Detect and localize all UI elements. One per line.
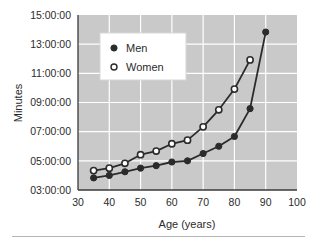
x-tick-label: 30 [72, 196, 84, 208]
x-tick-labels: 30405060708090100 [72, 196, 306, 208]
data-point-marker [169, 159, 175, 165]
data-point-marker [106, 165, 112, 171]
legend-label-women: Women [126, 61, 164, 73]
data-point-marker [122, 169, 128, 175]
data-point-marker [231, 86, 237, 92]
data-point-marker [122, 160, 128, 166]
data-point-marker [231, 133, 237, 139]
data-point-marker [184, 137, 190, 143]
x-tick-label: 50 [135, 196, 147, 208]
chart-figure: 03:00:0005:00:0007:00:0009:00:0011:00:00… [0, 0, 317, 247]
x-tick-label: 90 [260, 196, 272, 208]
y-tick-label: 03:00:00 [30, 184, 71, 196]
y-tick-label: 13:00:00 [30, 38, 71, 50]
x-tick-label: 100 [288, 196, 306, 208]
data-point-marker [184, 158, 190, 164]
data-point-marker [247, 106, 253, 112]
data-point-marker [137, 152, 143, 158]
data-point-marker [91, 168, 97, 174]
y-tick-label: 15:00:00 [30, 9, 71, 21]
legend-marker-men [111, 45, 117, 51]
footer-divider [12, 236, 305, 237]
data-point-marker [200, 150, 206, 156]
legend-marker-women [111, 64, 117, 70]
data-point-marker [153, 148, 159, 154]
x-tick-label: 40 [103, 196, 115, 208]
data-point-marker [263, 29, 269, 35]
data-point-marker [200, 124, 206, 130]
y-tick-labels: 03:00:0005:00:0007:00:0009:00:0011:00:00… [30, 9, 71, 196]
x-tick-label: 60 [166, 196, 178, 208]
x-tick-label: 70 [197, 196, 209, 208]
y-tick-label: 05:00:00 [30, 155, 71, 167]
data-point-marker [91, 175, 97, 181]
data-point-marker [137, 165, 143, 171]
data-point-marker [169, 141, 175, 147]
legend-label-men: Men [126, 42, 147, 54]
data-point-marker [216, 143, 222, 149]
x-tick-label: 80 [229, 196, 241, 208]
y-tick-label: 07:00:00 [30, 125, 71, 137]
y-tick-label: 11:00:00 [31, 67, 71, 79]
data-point-marker [153, 163, 159, 169]
data-point-marker [106, 172, 112, 178]
x-axis-title: Age (years) [159, 218, 216, 230]
data-point-marker [216, 107, 222, 113]
line-chart: 03:00:0005:00:0007:00:0009:00:0011:00:00… [0, 0, 317, 247]
y-axis-title: Minutes [12, 83, 24, 122]
chart-legend: MenWomen [100, 33, 186, 80]
y-tick-label: 09:00:00 [30, 96, 71, 108]
data-point-marker [247, 57, 253, 63]
